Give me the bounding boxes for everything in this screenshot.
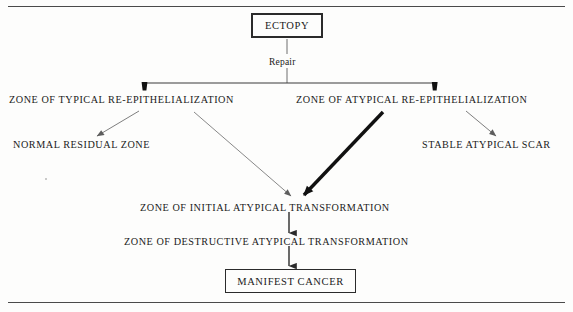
connector-layer: [0, 0, 573, 312]
node-zone-typical: ZONE OF TYPICAL RE-EPITHELIALIZATION: [9, 94, 234, 105]
node-zone-destructive-atypical-transformation: ZONE OF DESTRUCTIVE ATYPICAL TRANSFORMAT…: [124, 236, 409, 247]
node-zone-atypical: ZONE OF ATYPICAL RE-EPITHELIALIZATION: [296, 94, 527, 105]
node-manifest-cancer-label: MANIFEST CANCER: [237, 276, 344, 287]
node-ectopy: ECTOPY: [251, 13, 323, 38]
node-zone-initial-atypical-transformation: ZONE OF INITIAL ATYPICAL TRANSFORMATION: [140, 202, 390, 213]
node-manifest-cancer: MANIFEST CANCER: [225, 269, 356, 293]
node-normal-residual-zone: NORMAL RESIDUAL ZONE: [13, 139, 150, 150]
split-bar-right-arrowhead: [432, 82, 438, 91]
node-stable-atypical-scar: STABLE ATYPICAL SCAR: [422, 139, 551, 150]
edge-atypical-to-initial-thick: [304, 112, 383, 195]
node-ectopy-inner-border: ECTOPY: [252, 14, 322, 37]
edge-typical-to-normal-residual: [97, 111, 139, 136]
diagram-page: ECTOPY Repair ZONE OF TYPICAL RE-EPITHEL…: [0, 0, 573, 312]
edge-atypical-to-stable-scar: [466, 111, 496, 136]
node-ectopy-label: ECTOPY: [265, 20, 309, 31]
node-manifest-cancer-inner: MANIFEST CANCER: [226, 270, 355, 292]
edge-label-repair: Repair: [269, 57, 296, 67]
split-bar-left-arrowhead: [142, 82, 148, 91]
edge-typical-to-initial: [194, 112, 291, 196]
